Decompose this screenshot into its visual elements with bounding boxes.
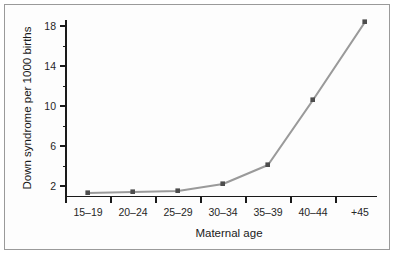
y-tick-label-18: 18	[44, 20, 56, 32]
x-axis-ticks	[66, 197, 336, 204]
data-point-25-29	[175, 188, 180, 193]
data-point-15-19	[85, 190, 90, 195]
data-point-45-plus	[362, 19, 367, 24]
y-tick-label-2: 2	[50, 180, 56, 192]
y-axis-title: Down syndrome per 1000 births	[21, 26, 33, 189]
x-tick-label-25-29: 25–29	[163, 206, 192, 218]
data-point-40-44	[310, 97, 315, 102]
y-tick-label-6: 6	[50, 140, 56, 152]
figure-container: 18 14 10 6 2 15–19 20–24 25–29 30–34 35–…	[0, 0, 395, 255]
x-tick-label-45-plus: +45	[351, 206, 369, 218]
x-tick-label-30-34: 30–34	[208, 206, 237, 218]
data-point-30-34	[220, 181, 225, 186]
x-axis-title: Maternal age	[195, 227, 262, 239]
x-tick-label-15-19: 15–19	[73, 206, 102, 218]
line-chart: 18 14 10 6 2 15–19 20–24 25–29 30–34 35–…	[0, 0, 395, 255]
data-point-20-24	[130, 189, 135, 194]
x-tick-label-40-44: 40–44	[298, 206, 327, 218]
x-tick-label-35-39: 35–39	[253, 206, 282, 218]
y-axis-major-ticks	[60, 26, 66, 186]
y-tick-label-14: 14	[44, 60, 56, 72]
data-point-35-39	[265, 162, 270, 167]
x-tick-label-20-24: 20–24	[118, 206, 147, 218]
y-tick-label-10: 10	[44, 100, 56, 112]
data-series-line	[88, 22, 365, 193]
data-markers	[85, 19, 367, 195]
